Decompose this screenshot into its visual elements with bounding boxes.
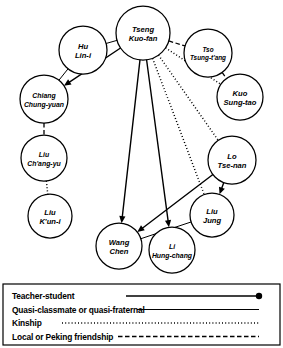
node-circle bbox=[20, 75, 68, 123]
node-circle bbox=[21, 135, 67, 181]
node-label-line2: Jung bbox=[203, 216, 222, 225]
node-label-line2: Tsung-t'ang bbox=[190, 54, 226, 62]
node-label-line1: Tso bbox=[202, 46, 213, 53]
node-wang[interactable]: WangChen bbox=[96, 223, 142, 269]
node-hu[interactable]: HuLin-i bbox=[59, 26, 107, 74]
arrowhead bbox=[119, 216, 125, 223]
node-label-line1: Liu bbox=[44, 208, 56, 217]
nodes-layer: TsengKuo-fanHuLin-iTsoTsung-t'angKuoSung… bbox=[20, 6, 263, 273]
node-label-line2: Lin-i bbox=[75, 51, 92, 60]
node-label-line1: Liu bbox=[39, 151, 50, 158]
node-label-line1: Hu bbox=[78, 42, 88, 51]
node-label-line2: Kuo-fan bbox=[129, 34, 158, 43]
node-lo[interactable]: LoTse-nan bbox=[208, 136, 256, 184]
edge-tseng-li bbox=[147, 60, 172, 227]
legend-item-label: Quasi-classmate or quasi-fraternal bbox=[12, 305, 145, 315]
node-liuj[interactable]: LiuJung bbox=[190, 193, 234, 237]
legend-item-label: Teacher-student bbox=[12, 291, 75, 301]
node-label-line1: Chiang bbox=[32, 92, 56, 100]
legend-item-label: Kinship bbox=[12, 318, 42, 328]
legend-item-label: Local or Peking friendship bbox=[12, 332, 113, 342]
node-label-line1: Liu bbox=[206, 207, 218, 216]
node-liuc[interactable]: LiuCh'ang-yu bbox=[21, 135, 67, 181]
node-liuk[interactable]: LiuK'un-i bbox=[28, 194, 72, 238]
node-label-line1: Tseng bbox=[132, 25, 154, 34]
node-circle bbox=[184, 29, 232, 77]
legend-item-kinship: Kinship bbox=[12, 318, 259, 328]
node-label-line2: K'un-i bbox=[39, 217, 61, 226]
edge-hu-chiang bbox=[59, 69, 68, 80]
node-label-line2: Sung-tao bbox=[224, 98, 257, 107]
edge-tseng-wang bbox=[119, 60, 140, 223]
node-label-line1: Lo bbox=[227, 152, 237, 161]
node-label-line2: Chen bbox=[110, 247, 129, 256]
diagram-frame: TsengKuo-fanHuLin-iTsoTsung-t'angKuoSung… bbox=[0, 0, 283, 348]
edge-lo-liuj bbox=[219, 183, 225, 195]
legend-item-friendship: Local or Peking friendship bbox=[12, 332, 259, 342]
edge-liuc-liuk bbox=[46, 181, 47, 194]
node-li[interactable]: LiHung-chang bbox=[149, 227, 195, 273]
legend-arrow-dot bbox=[256, 293, 262, 299]
edge-tseng-liuj bbox=[153, 58, 205, 194]
legend-item-teacher-student: Teacher-student bbox=[12, 291, 262, 301]
node-label-line1: Wang bbox=[109, 238, 130, 247]
node-tso[interactable]: TsoTsung-t'ang bbox=[184, 29, 232, 77]
arrowhead bbox=[64, 79, 72, 85]
network-diagram: TsengKuo-fanHuLin-iTsoTsung-t'angKuoSung… bbox=[0, 0, 283, 348]
legend-item-quasi-classmate: Quasi-classmate or quasi-fraternal bbox=[12, 305, 259, 315]
node-chiang[interactable]: ChiangChung-yuan bbox=[20, 75, 68, 123]
node-label-line2: Chung-yuan bbox=[24, 101, 64, 109]
edge-tseng-hu bbox=[106, 40, 117, 43]
arrowhead bbox=[165, 220, 171, 227]
node-kuo[interactable]: KuoSung-tao bbox=[217, 74, 263, 120]
arrowhead bbox=[137, 225, 144, 232]
node-label-line2: Tse-nan bbox=[218, 161, 247, 170]
arrowhead bbox=[219, 187, 225, 195]
node-tseng[interactable]: TsengKuo-fan bbox=[116, 6, 170, 60]
node-label-line2: Ch'ang-yu bbox=[27, 160, 61, 168]
node-label-line2: Hung-chang bbox=[152, 252, 193, 260]
legend: Teacher-studentQuasi-classmate or quasi-… bbox=[12, 291, 262, 342]
edge-tseng-tso bbox=[169, 41, 185, 46]
edge-tso-kuo bbox=[222, 72, 226, 78]
node-circle bbox=[149, 227, 195, 273]
node-label-line1: Kuo bbox=[233, 89, 248, 98]
